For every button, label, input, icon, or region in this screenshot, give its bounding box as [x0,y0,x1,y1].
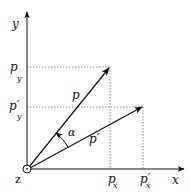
vector-p-label: p [72,88,80,102]
vector-p-prime-label: p′ [89,132,100,146]
vector-p-prime [30,107,142,168]
vector-p [29,68,109,167]
svg-text:p: p [10,60,18,74]
origin-label: z [15,173,21,186]
svg-text:y: y [16,112,22,121]
rotation-diagram: y x z p p′ α p y p′ y p x p′ x [0,0,191,196]
svg-text:x: x [113,181,118,190]
origin-dot-icon [26,168,28,170]
x-tick-px: p x [108,172,118,190]
y-tick-py: p y [10,60,22,83]
x-axis-label: x [172,173,179,187]
y-tick-py-prime: p′ y [9,99,22,121]
svg-text:y: y [16,74,22,83]
projection-lines [27,67,143,169]
x-tick-px-prime: p′ x [140,172,151,190]
angle-arc [56,133,68,147]
y-axis-label: y [11,17,19,31]
angle-label: α [68,126,76,139]
svg-text:p′: p′ [9,99,20,113]
svg-text:x: x [146,181,151,190]
